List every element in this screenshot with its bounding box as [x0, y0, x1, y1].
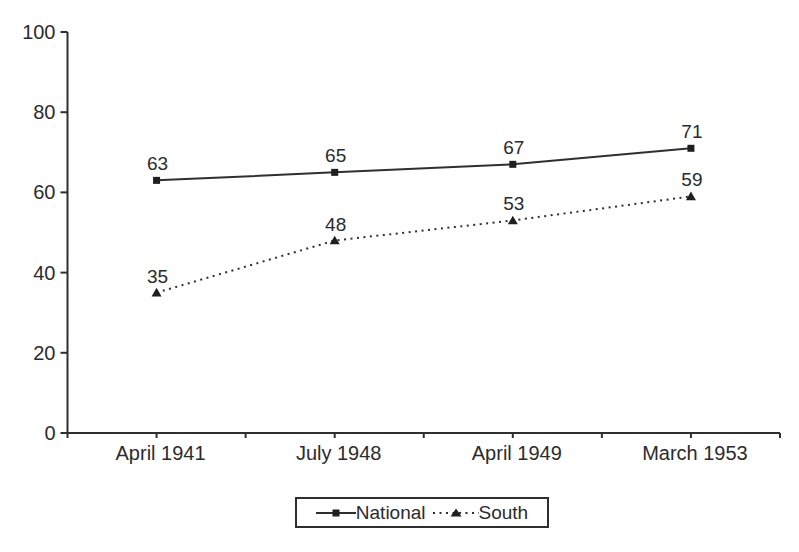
square-marker-icon	[153, 177, 160, 184]
square-marker-icon	[331, 169, 338, 176]
legend-label-national: National	[356, 503, 426, 522]
chart-legend: National South	[295, 497, 549, 528]
x-axis-label: March 1953	[642, 442, 748, 464]
y-axis-label: 20	[33, 342, 55, 364]
line-chart-figure: 020406080100April 1941July 1948April 194…	[0, 0, 799, 552]
y-axis-label: 40	[33, 262, 55, 284]
square-marker-icon	[687, 145, 694, 152]
axis-lines	[68, 32, 781, 433]
series-line-national	[157, 148, 691, 180]
data-label: 63	[147, 153, 168, 174]
legend-south-line-sample	[433, 507, 479, 519]
data-label: 48	[325, 214, 346, 235]
triangle-marker-icon	[508, 216, 518, 225]
data-label: 65	[325, 145, 346, 166]
x-axis-label: April 1941	[116, 442, 206, 464]
plot-area: 020406080100April 1941July 1948April 194…	[0, 0, 799, 520]
data-label: 59	[681, 169, 702, 190]
y-axis-label: 0	[44, 422, 55, 444]
legend-square-marker-icon	[332, 509, 339, 516]
x-axis-label: April 1949	[472, 442, 562, 464]
legend-label-south: South	[479, 503, 529, 522]
data-label: 67	[503, 137, 524, 158]
y-axis-label: 100	[22, 21, 55, 43]
data-label: 53	[503, 193, 524, 214]
y-axis-label: 60	[33, 181, 55, 203]
series-line-south	[157, 196, 691, 292]
triangle-marker-icon	[152, 288, 162, 297]
legend-national-line-sample	[316, 507, 356, 519]
x-axis-label: July 1948	[296, 442, 382, 464]
data-label: 71	[681, 121, 702, 142]
y-axis-label: 80	[33, 101, 55, 123]
data-label: 35	[147, 266, 168, 287]
square-marker-icon	[509, 161, 516, 168]
